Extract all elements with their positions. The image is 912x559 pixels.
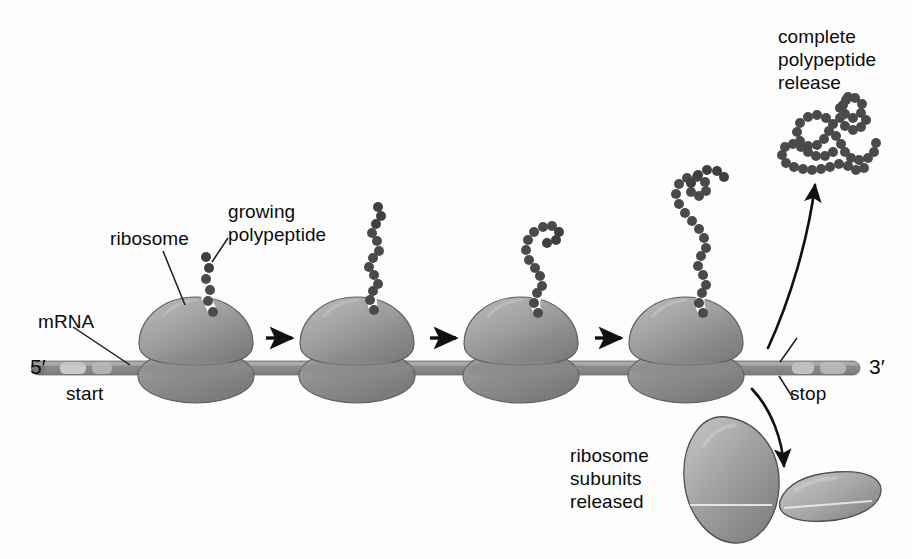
label-subunits-released-line1: ribosome: [570, 444, 649, 467]
label-stop-codon: stop: [790, 382, 826, 405]
ribosome-stage-2: [299, 297, 415, 403]
label-start-codon: start: [66, 382, 103, 405]
label-subunits-released-line2: subunits: [570, 467, 642, 490]
released-small-subunit: [780, 472, 882, 522]
label-complete-release-line1: complete: [778, 25, 856, 48]
figure-canvas: ribosome growing polypeptide mRNA 5′ 3′ …: [0, 0, 912, 559]
label-ribosome: ribosome: [110, 227, 189, 250]
leader-line-ribosome: [163, 251, 185, 305]
label-growing-polypeptide-line1: growing: [228, 200, 295, 223]
polypeptide-stage-4: [671, 165, 729, 318]
released-polypeptide: [777, 92, 881, 175]
ribosome-stage-4: [628, 297, 744, 403]
label-mrna: mRNA: [38, 310, 94, 333]
polypeptide-release-arrow: [768, 185, 815, 348]
ribosome-stage-3: [463, 297, 579, 403]
released-large-subunit: [684, 417, 779, 543]
ribosome-stage-1: [138, 297, 254, 403]
label-five-prime: 5′: [30, 355, 46, 378]
translation-diagram: [0, 0, 912, 559]
label-growing-polypeptide-line2: polypeptide: [228, 223, 326, 246]
leader-line-polypeptide: [212, 238, 228, 262]
label-complete-release-line2: polypeptide: [778, 48, 876, 71]
label-three-prime: 3′: [869, 355, 885, 378]
polypeptide-stage-2: [364, 202, 386, 315]
label-complete-release-line3: release: [778, 71, 841, 94]
label-subunits-released-line3: released: [570, 490, 644, 513]
